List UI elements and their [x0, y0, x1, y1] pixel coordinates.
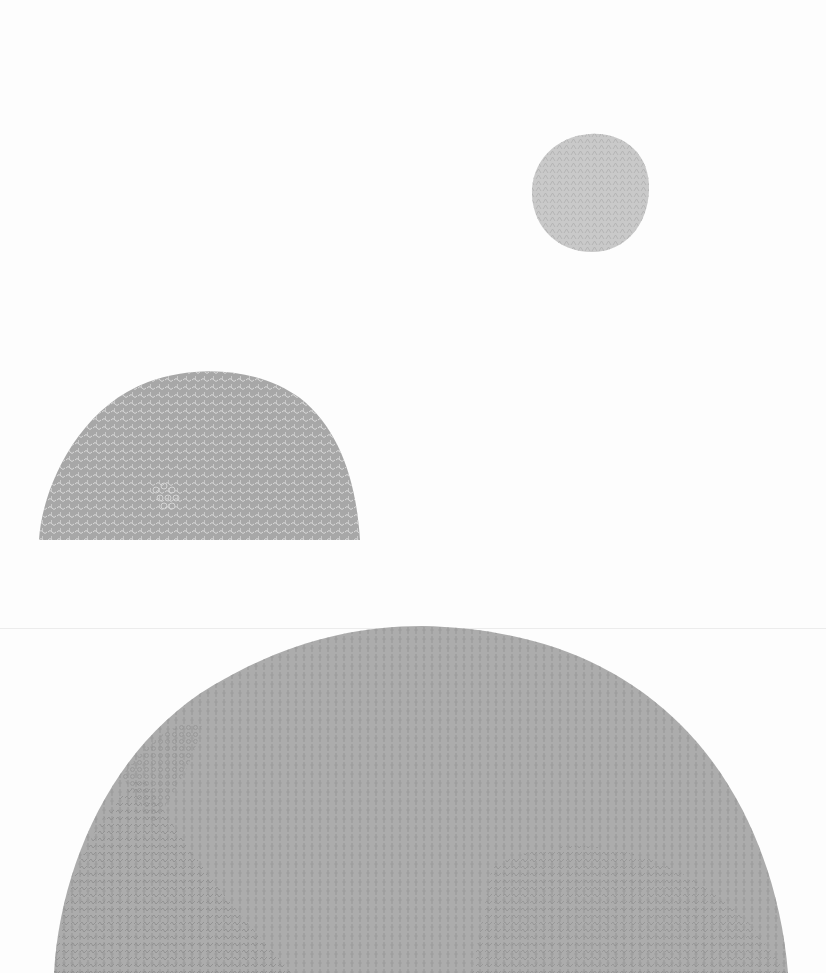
- small-circle: [528, 132, 652, 254]
- half-dome: [38, 368, 362, 542]
- large-dome: [52, 626, 790, 973]
